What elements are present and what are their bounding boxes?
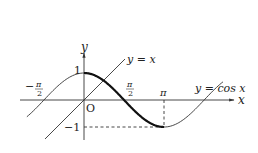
svg-text:π: π	[126, 80, 133, 89]
svg-text:2: 2	[37, 89, 42, 98]
label-y-equals-x: y = x	[126, 53, 156, 66]
svg-text:−: −	[25, 80, 34, 93]
tick-label-one: 1	[74, 64, 81, 77]
tick-label-pi-half: π 2	[126, 80, 134, 98]
graph-canvas: y x O 1 −1 − π 2 π 2 π y = x y = cos x	[0, 0, 258, 153]
origin-label: O	[86, 102, 95, 115]
tick-label-pi: π	[159, 87, 167, 98]
svg-text:π: π	[35, 80, 42, 89]
svg-text:2: 2	[128, 89, 133, 98]
tick-label-neg-pi-half: − π 2	[25, 80, 43, 98]
tick-label-neg-one: −1	[64, 121, 80, 134]
y-axis-label: y	[80, 40, 88, 54]
x-axis-label: x	[238, 93, 245, 107]
label-y-equals-cos-x: y = cos x	[194, 82, 246, 95]
